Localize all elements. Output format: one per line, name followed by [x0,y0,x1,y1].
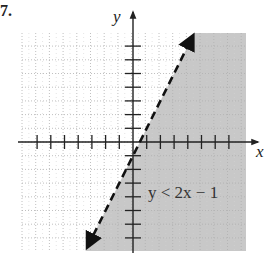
coordinate-plane: x y y < 2x − 1 [0,0,280,264]
inequality-graph-figure: 7. x y y < 2x − 1 [0,0,280,264]
problem-number: 7. [0,2,12,20]
y-axis-label: y [111,7,121,26]
x-axis-label: x [255,142,264,161]
inequality-label: y < 2x − 1 [148,183,218,202]
